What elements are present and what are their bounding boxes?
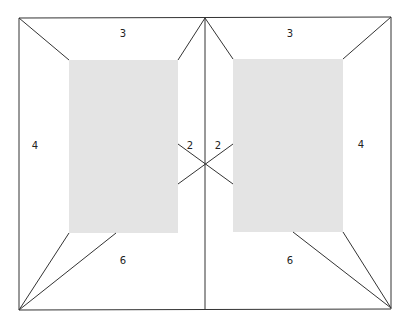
right-diagonal-bottom-outer <box>343 232 391 308</box>
left-text-block <box>69 60 178 233</box>
left-diagonal-bottom-inner <box>19 233 116 310</box>
left-head-margin-label: 3 <box>120 28 126 39</box>
left-foot-margin-label: 6 <box>120 255 126 266</box>
right-foot-margin-label: 6 <box>287 255 293 266</box>
left-inner-margin-label: 2 <box>187 140 193 151</box>
right-diagonal-top-outer <box>343 17 391 59</box>
left-diagonal-top-outer <box>19 18 69 60</box>
right-inner-margin-label: 2 <box>215 140 221 151</box>
right-head-margin-label: 3 <box>287 28 293 39</box>
right-text-block <box>233 59 343 232</box>
right-diagonal-top-inner <box>205 18 233 59</box>
left-diagonal-top-inner <box>178 18 205 60</box>
left-diagonal-bottom-outer <box>19 233 69 310</box>
page-spread-diagram: 3 4 2 6 3 4 2 6 <box>0 0 408 323</box>
right-outer-margin-label: 4 <box>358 139 364 150</box>
right-diagonal-bottom-inner <box>293 232 391 308</box>
left-outer-margin-label: 4 <box>32 140 38 151</box>
